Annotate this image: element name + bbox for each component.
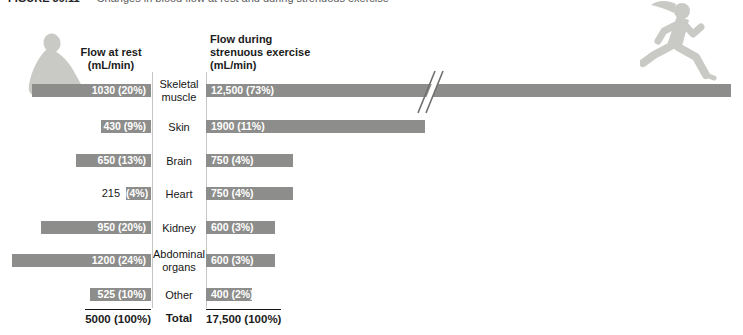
organ-label: Other — [152, 288, 206, 301]
exercise-bar: 600 (3%) — [206, 254, 275, 267]
row-skeletal-muscle: 1030 (20%) Skeletal muscle 12,500 (73%) — [0, 84, 743, 97]
organ-label: Kidney — [152, 221, 206, 234]
row-other: 525 (10%) Other 400 (2%) — [0, 288, 743, 301]
exercise-bar: 1900 (11%) — [206, 120, 425, 133]
organ-label: Skin — [152, 120, 206, 133]
exercise-column-header: Flow during strenuous exercise (mL/min) — [210, 33, 310, 72]
total-exercise-value: 17,500 (100%) — [206, 309, 281, 325]
figure-caption: FIGURE 39.11 Changes in blood flow at re… — [8, 0, 389, 4]
organ-label: Brain — [152, 154, 206, 167]
axis-break-icon — [412, 68, 452, 118]
organ-label: Abdominal organs — [152, 248, 206, 274]
row-kidney: 950 (20%) Kidney 600 (3%) — [0, 221, 743, 234]
running-person-icon — [640, 0, 740, 88]
total-rest-value: 5000 (100%) — [85, 309, 151, 325]
rest-header-line: Flow at rest — [70, 46, 152, 59]
blood-flow-figure: FIGURE 39.11 Changes in blood flow at re… — [0, 0, 743, 335]
exercise-bar: 750 (4%) — [206, 187, 293, 200]
rest-bar: 430 (9%) — [101, 120, 151, 133]
row-heart: 215 (4%) Heart 750 (4%) — [0, 187, 743, 200]
rest-bar: 1030 (20%) — [32, 84, 151, 97]
exercise-bar: 400 (2%) — [206, 288, 252, 301]
figure-caption-text: Changes in blood flow at rest and during… — [97, 0, 389, 4]
exercise-header-units: (mL/min) — [210, 59, 310, 72]
exercise-bar: 750 (4%) — [206, 154, 293, 167]
rest-bar: (4%) — [126, 187, 151, 200]
rest-bar: 525 (10%) — [90, 288, 151, 301]
rest-column-header: Flow at rest (mL/min) — [70, 46, 152, 72]
rest-bar-outside-value: 215 — [102, 187, 120, 200]
row-abdominal-organs: 1200 (24%) Abdominal organs 600 (3%) — [0, 254, 743, 267]
exercise-bar: 12,500 (73%) — [206, 84, 731, 97]
row-brain: 650 (13%) Brain 750 (4%) — [0, 154, 743, 167]
rest-bar: 1200 (24%) — [12, 254, 151, 267]
exercise-bar: 600 (3%) — [206, 221, 275, 234]
organ-label: Heart — [152, 187, 206, 200]
rest-header-units: (mL/min) — [70, 59, 152, 72]
total-label: Total — [152, 312, 206, 324]
rest-bar: 950 (20%) — [41, 221, 151, 234]
organ-label: Skeletal muscle — [152, 78, 206, 104]
figure-number: FIGURE 39.11 — [8, 0, 80, 4]
exercise-header-line2: strenuous exercise — [210, 46, 310, 59]
totals-row: 5000 (100%) Total 17,500 (100%) — [0, 309, 743, 329]
rest-bar: 650 (13%) — [76, 154, 151, 167]
exercise-header-line1: Flow during — [210, 33, 310, 46]
row-skin: 430 (9%) Skin 1900 (11%) — [0, 120, 743, 133]
